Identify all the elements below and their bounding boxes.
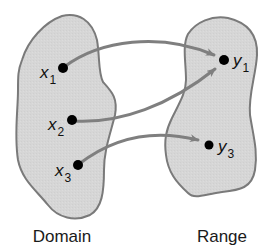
domain-label: Domain — [33, 227, 92, 246]
function-mapping-diagram: x1 x2 x3 y1 y3 Domain Range — [0, 0, 269, 251]
range-element-dot-y3 — [205, 141, 214, 150]
range-label: Range — [197, 227, 247, 246]
domain-set-shape — [16, 15, 116, 218]
range-element-dot-y1 — [219, 55, 229, 65]
domain-element-dot-x3 — [73, 160, 83, 170]
domain-element-dot-x1 — [58, 63, 68, 73]
domain-element-dot-x2 — [67, 115, 77, 125]
